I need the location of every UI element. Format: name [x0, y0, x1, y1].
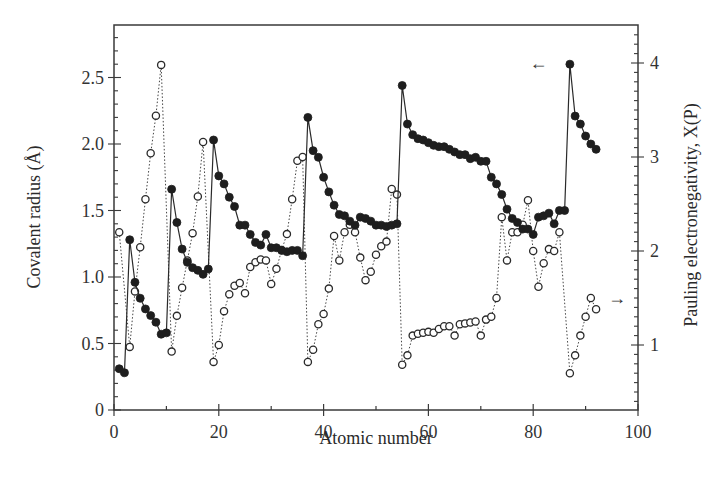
data-point-filled	[299, 252, 307, 260]
data-point-open	[393, 191, 400, 198]
data-point-open	[530, 247, 537, 254]
y-tick-label: 1.0	[82, 267, 105, 287]
data-point-filled	[168, 185, 176, 193]
data-point-filled	[231, 203, 239, 211]
data-point-open	[566, 370, 573, 377]
data-point-filled	[178, 245, 186, 253]
y-tick-label: 0.5	[82, 334, 105, 354]
data-point-open	[299, 153, 306, 160]
data-point-open	[220, 308, 227, 315]
y-axis-right-ticks: 1234	[631, 35, 659, 402]
left-arrow-icon: ←	[529, 53, 547, 73]
data-point-filled	[393, 220, 401, 228]
data-point-filled	[503, 205, 511, 213]
data-point-open	[116, 229, 123, 236]
data-point-filled	[304, 113, 312, 121]
data-point-open	[152, 112, 159, 119]
y-right-tick-label: 4	[650, 53, 659, 73]
data-point-filled	[220, 180, 228, 188]
data-point-filled	[576, 120, 584, 128]
data-point-filled	[561, 207, 569, 215]
data-point-filled	[162, 329, 170, 337]
plot-frame	[114, 25, 638, 410]
data-point-filled	[529, 230, 537, 238]
data-point-filled	[262, 230, 270, 238]
data-point-filled	[592, 145, 600, 153]
data-point-filled	[498, 191, 506, 199]
data-point-open	[236, 279, 243, 286]
data-point-open	[215, 341, 222, 348]
data-point-open	[226, 291, 233, 298]
data-point-open	[320, 310, 327, 317]
data-point-open	[488, 313, 495, 320]
data-point-open	[126, 343, 133, 350]
data-point-open	[341, 229, 348, 236]
data-point-open	[472, 318, 479, 325]
data-point-open	[592, 306, 599, 313]
data-point-open	[173, 312, 180, 319]
data-point-open	[540, 260, 547, 267]
data-point-open	[477, 332, 484, 339]
data-point-open	[582, 313, 589, 320]
data-point-filled	[351, 221, 359, 229]
data-point-open	[315, 321, 322, 328]
x-tick-label: 20	[210, 422, 228, 442]
data-point-open	[241, 290, 248, 297]
data-point-filled	[141, 305, 149, 313]
data-point-open	[357, 254, 364, 261]
data-point-open	[199, 138, 206, 145]
data-point-open	[383, 238, 390, 245]
data-point-filled	[131, 278, 139, 286]
data-point-open	[404, 352, 411, 359]
data-point-open	[262, 257, 269, 264]
y-tick-label: 1.5	[82, 201, 105, 221]
data-point-filled	[136, 294, 144, 302]
data-point-filled	[545, 209, 553, 217]
series-covalent-radius	[115, 60, 600, 377]
data-point-open	[142, 196, 149, 203]
data-point-open	[137, 244, 144, 251]
x-tick-label: 0	[110, 422, 119, 442]
data-point-open	[556, 229, 563, 236]
data-point-filled	[566, 60, 574, 68]
data-point-filled	[225, 193, 233, 201]
data-point-open	[210, 358, 217, 365]
data-point-filled	[257, 241, 265, 249]
x-axis-title: Atomic number	[319, 428, 432, 448]
data-point-filled	[173, 218, 181, 226]
data-point-filled	[398, 81, 406, 89]
data-point-open	[399, 361, 406, 368]
x-tick-label: 80	[524, 422, 542, 442]
data-point-open	[268, 280, 275, 287]
data-point-filled	[215, 172, 223, 180]
axis-arrows: ←→	[529, 53, 626, 308]
data-point-open	[310, 346, 317, 353]
right-arrow-icon: →	[608, 288, 626, 308]
data-point-open	[577, 332, 584, 339]
y-tick-label: 2.5	[82, 68, 105, 88]
data-point-open	[446, 323, 453, 330]
data-point-filled	[204, 265, 212, 273]
y-right-tick-label: 3	[650, 147, 659, 167]
data-point-filled	[241, 221, 249, 229]
x-tick-label: 100	[625, 422, 652, 442]
data-point-filled	[309, 147, 317, 155]
data-point-open	[158, 61, 165, 68]
data-point-filled	[582, 132, 590, 140]
data-point-filled	[152, 318, 160, 326]
data-point-open	[503, 257, 510, 264]
y-axis-right-title: Pauling electronegativity, X(P)	[681, 103, 702, 326]
data-point-open	[587, 294, 594, 301]
data-point-open	[325, 285, 332, 292]
data-point-filled	[120, 369, 128, 377]
data-point-open	[535, 283, 542, 290]
data-point-filled	[126, 236, 134, 244]
data-point-open	[572, 352, 579, 359]
data-point-open	[524, 197, 531, 204]
data-point-open	[372, 251, 379, 258]
data-point-open	[493, 294, 500, 301]
data-point-open	[551, 247, 558, 254]
data-point-filled	[246, 230, 254, 238]
data-point-filled	[314, 153, 322, 161]
y-right-tick-label: 2	[650, 241, 659, 261]
